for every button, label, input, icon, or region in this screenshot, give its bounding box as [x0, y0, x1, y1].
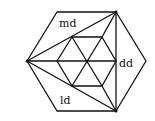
vertex-bottom-right: [115, 110, 118, 113]
hexagon-diagram: md dd ld: [0, 0, 155, 121]
label-md: md: [59, 17, 76, 30]
vertex-top-right: [115, 11, 118, 14]
label-ld: ld: [60, 94, 71, 107]
vertex-left: [26, 60, 29, 63]
label-dd: dd: [119, 57, 133, 70]
